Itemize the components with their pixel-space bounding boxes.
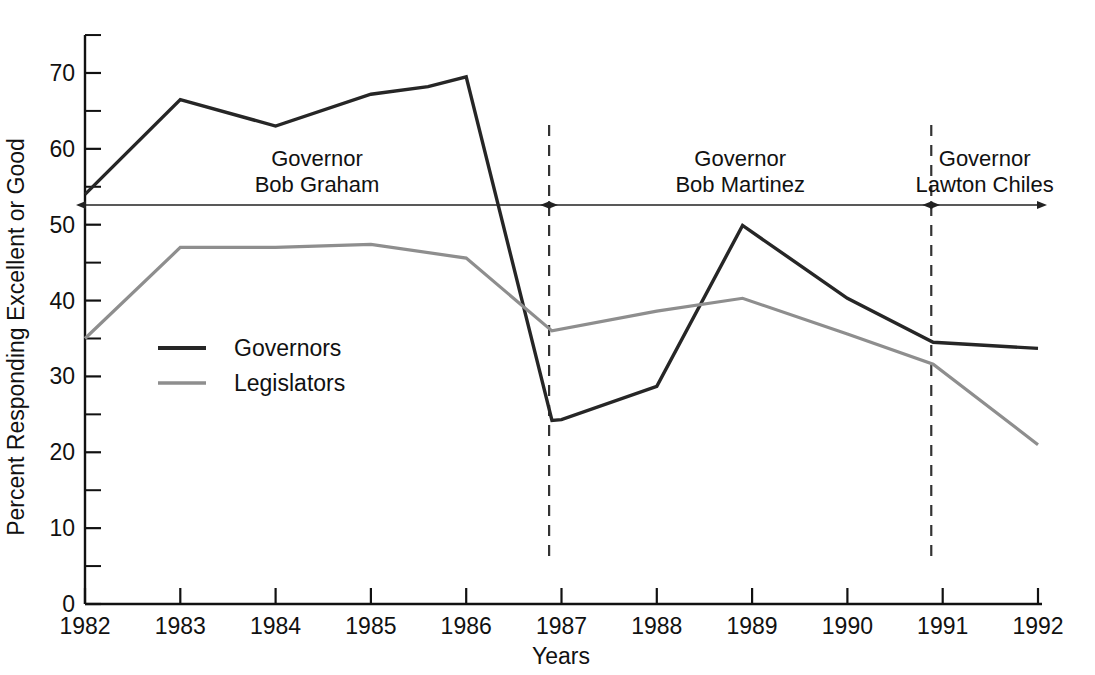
x-tick-label: 1984 [250, 613, 301, 639]
y-tick-label: 60 [49, 136, 75, 162]
x-tick-label: 1987 [536, 613, 587, 639]
x-tick-label: 1989 [727, 613, 778, 639]
series-line-legislators [85, 244, 1038, 444]
term-label-title: Governor [939, 146, 1031, 171]
line-chart-canvas: 010203040506070 198219831984198519861987… [0, 0, 1095, 675]
y-tick-label: 30 [49, 363, 75, 389]
data-series [85, 77, 1038, 445]
term-annotations: GovernorBob GrahamGovernorBob MartinezGo… [86, 146, 1054, 205]
y-tick-label: 40 [49, 288, 75, 314]
x-tick-label: 1982 [59, 613, 110, 639]
y-tick-label: 50 [49, 212, 75, 238]
y-tick-label: 70 [49, 60, 75, 86]
term-label-title: Governor [271, 146, 363, 171]
y-tick-label: 10 [49, 515, 75, 541]
x-tick-label: 1991 [917, 613, 968, 639]
chart-legend: GovernorsLegislators [158, 335, 345, 396]
x-axis-title: Years [532, 643, 590, 669]
term-label-title: Governor [694, 146, 786, 171]
legend-label-legislators: Legislators [234, 370, 345, 396]
x-axis: 1982198319841985198619871988198919901991… [59, 588, 1063, 639]
x-tick-label: 1986 [441, 613, 492, 639]
y-tick-label: 20 [49, 439, 75, 465]
legend-label-governors: Governors [234, 335, 341, 361]
term-label-name: Lawton Chiles [916, 172, 1054, 197]
y-axis-title: Percent Responding Excellent or Good [3, 138, 29, 536]
x-tick-label: 1988 [631, 613, 682, 639]
x-tick-label: 1992 [1012, 613, 1063, 639]
term-label-name: Bob Martinez [675, 172, 805, 197]
chart-figure: 010203040506070 198219831984198519861987… [0, 0, 1095, 675]
x-tick-label: 1983 [155, 613, 206, 639]
y-axis: 010203040506070 [49, 35, 101, 617]
x-tick-label: 1990 [822, 613, 873, 639]
x-tick-label: 1985 [345, 613, 396, 639]
term-label-name: Bob Graham [255, 172, 380, 197]
